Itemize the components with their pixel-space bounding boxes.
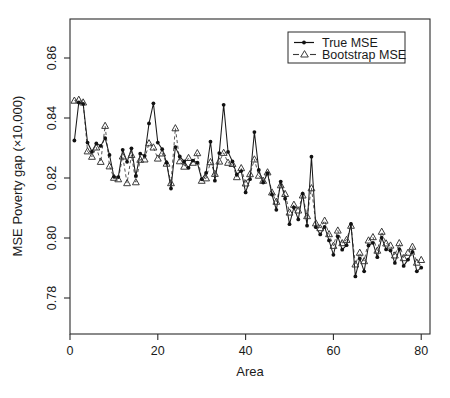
true-mse-point bbox=[235, 173, 239, 177]
true-mse-point bbox=[231, 160, 235, 164]
true-mse-point bbox=[222, 103, 226, 107]
y-tick-label: 0.78 bbox=[45, 286, 59, 310]
true-mse-point bbox=[380, 236, 384, 240]
true-mse-point bbox=[178, 155, 182, 159]
true-mse-point bbox=[112, 175, 116, 179]
true-mse-point bbox=[318, 233, 322, 237]
true-mse-point bbox=[252, 130, 256, 134]
true-mse-point bbox=[340, 248, 344, 252]
true-mse-point bbox=[121, 148, 125, 152]
x-tick-label: 60 bbox=[326, 344, 340, 358]
true-mse-point bbox=[384, 248, 388, 252]
true-mse-point bbox=[288, 222, 292, 226]
y-tick-label: 0.84 bbox=[45, 106, 59, 130]
true-mse-point bbox=[283, 197, 287, 201]
true-mse-point bbox=[116, 175, 120, 179]
true-mse-point bbox=[191, 159, 195, 163]
true-mse-point bbox=[94, 142, 98, 146]
true-mse-point bbox=[371, 241, 375, 245]
true-mse-point bbox=[332, 253, 336, 257]
true-mse-point bbox=[310, 155, 314, 159]
true-mse-point bbox=[213, 179, 217, 183]
true-mse-point bbox=[314, 225, 318, 229]
y-axis-title: MSE Poverty gap (×10,000) bbox=[10, 96, 25, 257]
true-mse-point bbox=[187, 166, 191, 170]
true-mse-point bbox=[200, 177, 204, 181]
true-mse-point bbox=[147, 122, 151, 126]
true-mse-point bbox=[156, 141, 160, 145]
true-mse-point bbox=[305, 224, 309, 228]
y-tick-label: 0.86 bbox=[45, 46, 59, 70]
x-tick-label: 20 bbox=[151, 344, 165, 358]
true-mse-point bbox=[345, 243, 349, 247]
true-mse-point bbox=[415, 269, 419, 273]
legend-dot-icon bbox=[302, 41, 306, 45]
true-mse-point bbox=[138, 152, 142, 156]
true-mse-point bbox=[397, 247, 401, 251]
true-mse-point bbox=[358, 257, 362, 261]
mse-poverty-gap-chart: 0.780.800.820.840.86 020406080 MSE Pover… bbox=[0, 0, 450, 398]
true-mse-point bbox=[257, 168, 261, 172]
true-mse-point bbox=[182, 160, 186, 164]
y-tick-label: 0.80 bbox=[45, 226, 59, 250]
true-mse-point bbox=[248, 177, 252, 181]
true-mse-point bbox=[81, 102, 85, 106]
true-mse-point bbox=[261, 181, 265, 185]
true-mse-point bbox=[108, 153, 112, 157]
true-mse-point bbox=[349, 222, 353, 226]
true-mse-point bbox=[204, 171, 208, 175]
true-mse-point bbox=[301, 192, 305, 196]
true-mse-point bbox=[169, 187, 173, 191]
true-mse-point bbox=[152, 101, 156, 105]
true-mse-point bbox=[270, 193, 274, 197]
true-mse-point bbox=[195, 161, 199, 165]
true-mse-point bbox=[130, 146, 134, 150]
true-mse-point bbox=[103, 136, 107, 140]
true-mse-point bbox=[402, 264, 406, 268]
true-mse-point bbox=[375, 255, 379, 259]
true-mse-point bbox=[367, 244, 371, 248]
true-mse-point bbox=[90, 150, 94, 154]
true-mse-point bbox=[217, 151, 221, 155]
true-mse-point bbox=[125, 160, 129, 164]
true-mse-point bbox=[239, 169, 243, 173]
true-mse-point bbox=[99, 144, 103, 148]
true-mse-point bbox=[226, 150, 230, 154]
true-mse-point bbox=[336, 235, 340, 239]
true-mse-point bbox=[406, 258, 410, 262]
true-mse-point bbox=[77, 101, 81, 105]
true-mse-point bbox=[411, 250, 415, 254]
x-tick-label: 80 bbox=[414, 344, 428, 358]
true-mse-point bbox=[353, 275, 357, 279]
true-mse-point bbox=[134, 174, 138, 178]
true-mse-point bbox=[173, 145, 177, 149]
true-mse-point bbox=[393, 261, 397, 265]
true-mse-point bbox=[362, 269, 366, 273]
legend[interactable]: True MSE Bootstrap MSE bbox=[288, 32, 406, 63]
x-axis-title: Area bbox=[236, 364, 264, 379]
true-mse-point bbox=[292, 206, 296, 210]
true-mse-point bbox=[419, 266, 423, 270]
true-mse-point bbox=[165, 161, 169, 165]
true-mse-point bbox=[389, 249, 393, 253]
true-mse-point bbox=[72, 139, 76, 143]
true-mse-point bbox=[160, 147, 164, 151]
true-mse-point bbox=[296, 218, 300, 222]
x-tick-label: 0 bbox=[67, 344, 74, 358]
true-mse-point bbox=[274, 208, 278, 212]
true-mse-point bbox=[323, 225, 327, 229]
chart-container: 0.780.800.820.840.86 020406080 MSE Pover… bbox=[0, 0, 450, 398]
true-mse-point bbox=[327, 239, 331, 243]
true-mse-point bbox=[244, 191, 248, 195]
legend-label-bootstrap-mse: Bootstrap MSE bbox=[322, 48, 406, 62]
true-mse-point bbox=[143, 154, 147, 158]
true-mse-point bbox=[266, 171, 270, 175]
true-mse-point bbox=[209, 140, 213, 144]
x-tick-label: 40 bbox=[239, 344, 253, 358]
true-mse-point bbox=[279, 180, 283, 184]
y-tick-label: 0.82 bbox=[45, 166, 59, 190]
true-mse-point bbox=[86, 141, 90, 145]
